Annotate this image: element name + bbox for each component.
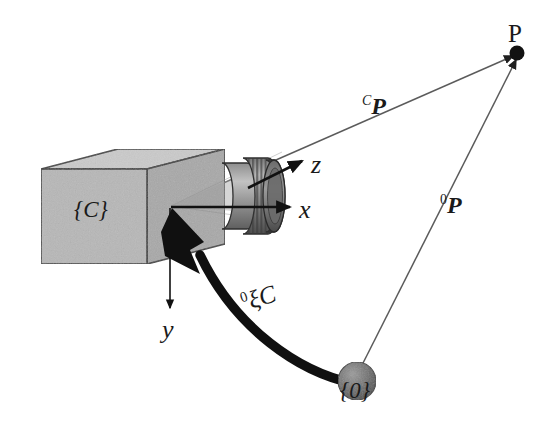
point-P-label: P [508,21,522,46]
point-P-marker [510,46,525,61]
axis-x-label: x [299,197,311,223]
vector-world-to-point-label: 0P [440,193,462,217]
camera-projection-figure: {C} x y z P CP 0P 0ξC {0} [0,0,551,444]
world-frame-label: {0} [340,379,370,402]
pose-arrow-curve [200,255,352,383]
axis-z-label: z [311,152,321,178]
vector-world-superscript: 0 [440,192,447,207]
vector-world-base: P [447,192,462,218]
axis-y-label: y [162,317,174,343]
camera-frame-label: {C} [74,198,108,221]
diagram-canvas [0,0,551,444]
vector-camera-to-point-label: CP [362,94,386,118]
vector-camera-base: P [371,93,386,119]
vector-camera-superscript: C [362,93,371,108]
